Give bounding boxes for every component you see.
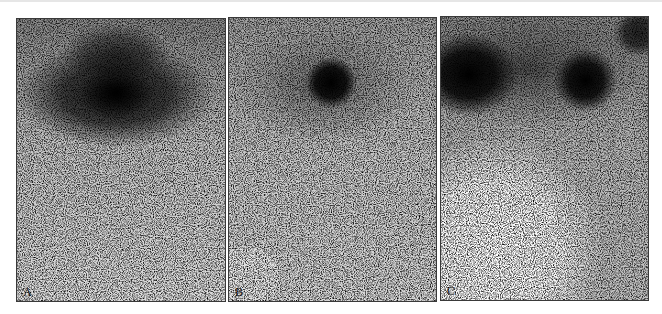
panel-label-c: C bbox=[447, 285, 455, 297]
panel-a-scan: A bbox=[16, 18, 226, 302]
scan-image-c bbox=[441, 17, 648, 300]
scan-image-b bbox=[229, 18, 436, 301]
panel-c-scan: C bbox=[440, 16, 649, 301]
panel-b-scan: B bbox=[228, 17, 437, 302]
scan-image-a bbox=[17, 19, 225, 301]
panel-label-b: B bbox=[235, 286, 243, 298]
top-edge-line bbox=[0, 0, 662, 2]
panel-label-a: A bbox=[23, 286, 32, 298]
